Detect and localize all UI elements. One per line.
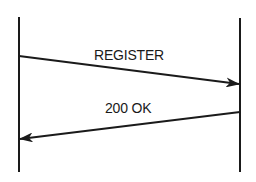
register-label: REGISTER [94, 48, 164, 62]
ok-label: 200 OK [105, 101, 151, 115]
ok-arrow [20, 112, 240, 139]
sequence-diagram: REGISTER 200 OK [0, 0, 256, 182]
diagram-svg [0, 0, 256, 182]
